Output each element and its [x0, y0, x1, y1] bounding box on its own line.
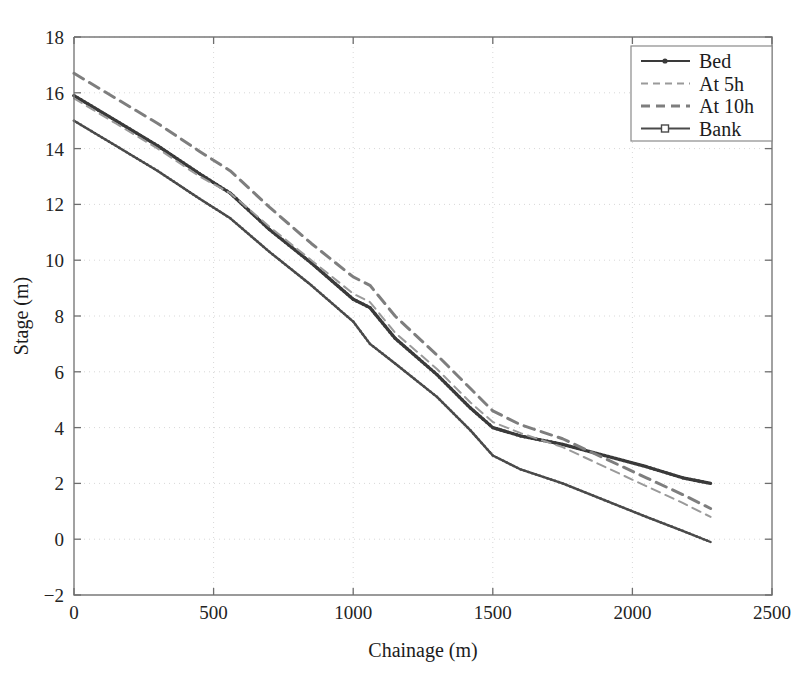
series-marker [519, 468, 522, 471]
series-marker [420, 383, 423, 386]
series-marker [695, 535, 698, 538]
series-marker [463, 401, 466, 404]
series-marker [475, 435, 478, 438]
x-tick-label: 1500 [474, 602, 512, 623]
series-marker [343, 313, 346, 316]
series-marker [331, 302, 334, 305]
series-marker [238, 225, 241, 228]
series-marker [516, 466, 519, 469]
series-marker [94, 132, 97, 135]
series-marker [381, 352, 384, 355]
series-marker [447, 407, 450, 410]
series-marker [670, 525, 673, 528]
series-marker [355, 299, 358, 302]
series-marker [701, 480, 704, 483]
series-marker [281, 261, 284, 264]
series-marker [163, 174, 166, 177]
series-marker [554, 480, 557, 483]
series-marker [383, 324, 386, 327]
series-marker [435, 373, 438, 376]
series-marker [343, 290, 346, 293]
series-marker [281, 238, 284, 241]
series-marker [300, 276, 303, 279]
series-marker [495, 456, 498, 459]
series-marker [596, 496, 599, 499]
series-marker [478, 439, 481, 442]
series-marker [495, 427, 498, 430]
series-marker [414, 355, 417, 358]
series-marker [469, 429, 472, 432]
series-marker [542, 476, 545, 479]
series-marker [362, 303, 365, 306]
series-marker [630, 509, 633, 512]
chart-legend[interactable]: BedAt 5hAt 10hBank [631, 46, 772, 141]
series-marker [316, 266, 319, 269]
legend-label-bed[interactable]: Bed [699, 50, 731, 72]
series-marker [384, 355, 387, 358]
series-marker [485, 420, 488, 423]
series-marker [80, 124, 83, 127]
y-tick-label: 18 [45, 27, 64, 48]
series-marker [215, 208, 218, 211]
series-marker [678, 528, 681, 531]
series-marker [104, 138, 107, 141]
series-marker [340, 310, 343, 313]
series-marker [250, 235, 253, 238]
series-marker [423, 385, 426, 388]
series-marker [83, 126, 86, 129]
series-marker [649, 517, 652, 520]
series-marker [337, 307, 340, 310]
series-marker [641, 514, 644, 517]
series-marker [118, 147, 121, 150]
series-marker [192, 193, 195, 196]
series-marker [108, 140, 111, 143]
series-marker [669, 472, 672, 475]
series-marker [689, 478, 692, 481]
series-marker [381, 321, 384, 324]
series-marker [182, 187, 185, 190]
series-marker [452, 412, 455, 415]
x-tick-label: 500 [199, 602, 228, 623]
series-marker [122, 149, 125, 152]
series-marker [209, 204, 212, 207]
series-marker [143, 161, 146, 164]
series-marker [87, 128, 90, 131]
series-marker [480, 442, 483, 445]
series-marker [375, 347, 378, 350]
legend-label-at-5h[interactable]: At 5h [699, 73, 744, 95]
y-tick-label: 10 [45, 250, 64, 271]
series-marker [139, 159, 142, 162]
series-marker [685, 477, 688, 480]
series-marker [125, 125, 128, 128]
series-marker [491, 426, 494, 429]
series-marker [478, 415, 481, 418]
legend-label-at-10h[interactable]: At 10h [699, 95, 754, 117]
x-tick-label: 0 [69, 602, 79, 623]
series-marker [416, 380, 419, 383]
legend-label-bank[interactable]: Bank [699, 118, 741, 140]
series-marker [469, 406, 472, 409]
series-marker [455, 415, 458, 418]
line-chart: −202468101214161805001000150020002500 Ch… [0, 0, 808, 675]
series-marker [400, 367, 403, 370]
series-marker [634, 511, 637, 514]
series-marker [189, 191, 192, 194]
series-marker [665, 471, 668, 474]
series-marker [111, 117, 114, 120]
series-marker [561, 482, 564, 485]
series-marker [450, 410, 453, 413]
series-marker [429, 368, 432, 371]
series-marker [172, 155, 175, 158]
series-marker [475, 412, 478, 415]
series-marker [441, 401, 444, 404]
series-marker [523, 469, 526, 472]
series-marker [569, 445, 572, 448]
series-marker [322, 294, 325, 297]
series-marker [458, 395, 461, 398]
legend-square-marker-icon [662, 125, 669, 132]
series-marker [253, 238, 256, 241]
x-tick-label: 2000 [613, 602, 651, 623]
series-marker [561, 443, 564, 446]
series-marker [633, 462, 636, 465]
series-marker [358, 301, 361, 304]
